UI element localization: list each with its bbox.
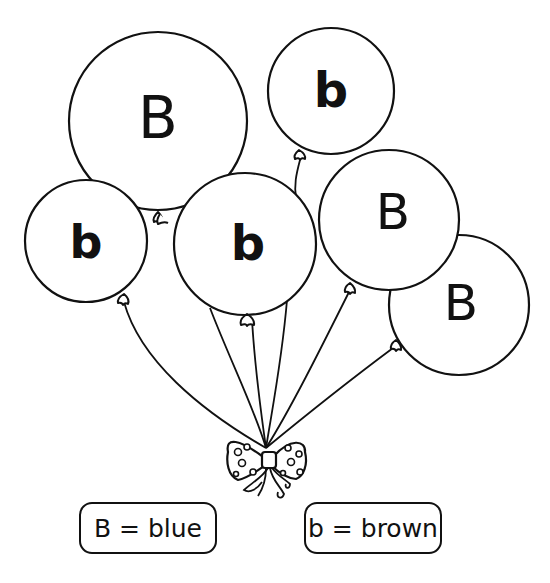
balloon-letter: B: [138, 84, 178, 152]
balloon-letter: B: [444, 274, 478, 332]
balloon-top-right[interactable]: b: [268, 28, 394, 160]
legend-brown: b = brown: [305, 503, 441, 553]
balloon-left[interactable]: b: [25, 180, 147, 305]
legend-brown-text: b = brown: [308, 514, 438, 543]
bow-icon: [227, 442, 306, 498]
legend-blue-text: B = blue: [94, 514, 202, 543]
balloon-letter: b: [314, 62, 348, 118]
balloon-letter: b: [70, 215, 103, 269]
balloon-letter: b: [231, 215, 265, 271]
balloon-letter: B: [376, 183, 410, 241]
balloon-center[interactable]: b: [174, 173, 316, 326]
balloon-knot: [157, 214, 168, 224]
balloon-worksheet: B b b B B b: [0, 0, 550, 583]
legend-blue: B = blue: [80, 503, 216, 553]
